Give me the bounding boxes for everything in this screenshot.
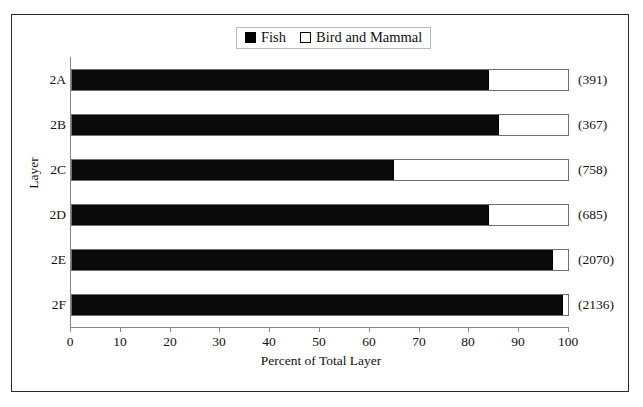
plot-area bbox=[70, 57, 569, 328]
bar-count-annotation: (2070) bbox=[578, 249, 614, 271]
bar-segment-fish bbox=[72, 250, 553, 270]
y-axis-tick-label: 2D bbox=[26, 204, 66, 226]
x-axis-tick-mark bbox=[269, 327, 270, 332]
x-axis-tick-label: 0 bbox=[67, 334, 74, 350]
legend-label-fish: Fish bbox=[261, 30, 286, 45]
bar-row bbox=[71, 114, 569, 136]
bar-count-annotation: (391) bbox=[578, 69, 607, 91]
bar-segment-fish bbox=[72, 70, 489, 90]
x-axis-tick-label: 100 bbox=[558, 334, 578, 350]
chart-legend: Fish Bird and Mammal bbox=[236, 27, 431, 49]
x-axis-tick-label: 30 bbox=[212, 334, 226, 350]
legend-label-bird-and-mammal: Bird and Mammal bbox=[316, 30, 422, 45]
bar-segment-fish bbox=[72, 295, 563, 315]
bar-segment-bird-and-mammal bbox=[71, 69, 569, 91]
x-axis-tick-mark bbox=[70, 327, 71, 332]
y-axis-tick-label: 2A bbox=[26, 69, 66, 91]
x-axis-tick-label: 70 bbox=[412, 334, 426, 350]
filled-square-icon bbox=[245, 32, 256, 43]
x-axis-tick-mark bbox=[319, 327, 320, 332]
x-axis-tick-mark bbox=[369, 327, 370, 332]
y-axis-tick-label: 2F bbox=[26, 294, 66, 316]
x-axis-tick-label: 20 bbox=[163, 334, 177, 350]
bar-row bbox=[71, 69, 569, 91]
bar-segment-bird-and-mammal bbox=[71, 159, 569, 181]
x-axis-tick-label: 50 bbox=[312, 334, 326, 350]
x-axis-tick-mark bbox=[468, 327, 469, 332]
bar-segment-bird-and-mammal bbox=[71, 294, 569, 316]
x-axis-tick-mark bbox=[568, 327, 569, 332]
bar-count-annotation: (2136) bbox=[578, 294, 614, 316]
bar-segment-fish bbox=[72, 160, 394, 180]
x-axis-tick-mark bbox=[419, 327, 420, 332]
bar-count-annotation: (758) bbox=[578, 159, 607, 181]
y-axis-tick-label: 2B bbox=[26, 114, 66, 136]
bar-row bbox=[71, 159, 569, 181]
x-axis-tick-mark bbox=[120, 327, 121, 332]
bar-segment-bird-and-mammal bbox=[71, 204, 569, 226]
x-axis-tick-label: 90 bbox=[511, 334, 525, 350]
chart-figure: Fish Bird and Mammal Layer 0102030405060… bbox=[11, 14, 629, 392]
legend-item-bird-and-mammal: Bird and Mammal bbox=[300, 30, 422, 45]
x-axis-title: Percent of Total Layer bbox=[12, 353, 630, 369]
bar-row bbox=[71, 294, 569, 316]
y-axis-tick-label: 2E bbox=[26, 249, 66, 271]
bar-row bbox=[71, 249, 569, 271]
bar-segment-bird-and-mammal bbox=[71, 249, 569, 271]
x-axis-tick-mark bbox=[518, 327, 519, 332]
x-axis-tick-mark bbox=[219, 327, 220, 332]
bar-segment-fish bbox=[72, 115, 499, 135]
hollow-square-icon bbox=[300, 32, 311, 43]
y-axis-tick-label: 2C bbox=[26, 159, 66, 181]
bar-count-annotation: (685) bbox=[578, 204, 607, 226]
x-axis-tick-label: 80 bbox=[461, 334, 475, 350]
bar-count-annotation: (367) bbox=[578, 114, 607, 136]
x-axis-tick-label: 10 bbox=[113, 334, 127, 350]
x-axis-tick-label: 60 bbox=[362, 334, 376, 350]
x-axis-tick-mark bbox=[170, 327, 171, 332]
x-axis-tick-label: 40 bbox=[262, 334, 276, 350]
bar-segment-bird-and-mammal bbox=[71, 114, 569, 136]
legend-item-fish: Fish bbox=[245, 30, 286, 45]
bar-row bbox=[71, 204, 569, 226]
bar-segment-fish bbox=[72, 205, 489, 225]
